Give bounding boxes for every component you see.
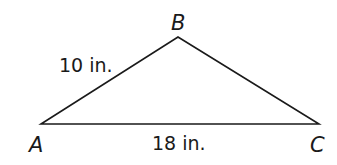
triangle-diagram: B A C 10 in. 18 in. [0, 0, 337, 165]
side-ac-length-label: 18 in. [152, 132, 206, 154]
vertex-label-c: C [310, 133, 325, 157]
side-ab-length-label: 10 in. [59, 54, 113, 76]
vertex-label-a: A [27, 133, 43, 157]
vertex-label-b: B [171, 11, 185, 35]
